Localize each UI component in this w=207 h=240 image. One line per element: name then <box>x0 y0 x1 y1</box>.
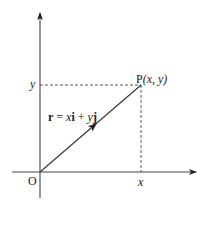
point-label: P(x, y) <box>136 73 167 85</box>
vector-j: j <box>93 110 97 124</box>
x-tick-label: x <box>138 176 143 188</box>
origin-label: O <box>28 175 37 187</box>
y-tick-label: y <box>30 78 35 90</box>
vector-plus: + <box>75 110 88 124</box>
vector-equation-label: r = xi + yj <box>48 111 97 123</box>
vector-eq: = <box>53 110 66 124</box>
point-name: P <box>136 72 143 86</box>
position-vector-line <box>40 85 141 172</box>
point-coords: (x, y) <box>143 72 168 86</box>
